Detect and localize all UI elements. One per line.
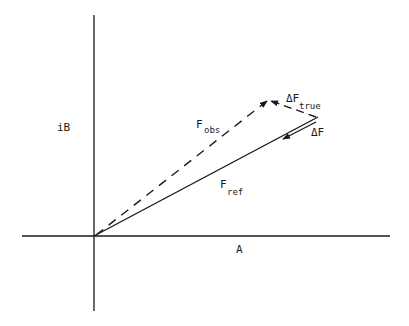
delta-f-true-label-base: ΔF [286, 92, 299, 105]
delta-f-label: ΔF [311, 126, 324, 139]
axis-label-a: A [236, 243, 243, 256]
axis-label-ib: iB [57, 121, 71, 134]
f-obs-label-base: F [196, 118, 203, 131]
f-ref-label-base: F [220, 178, 227, 191]
f-ref-label-subscript: ref [227, 187, 243, 197]
f-obs-vector [96, 101, 267, 235]
delta-f-true-label-subscript: true [299, 101, 321, 111]
vector-diagram: iB A F obs F ref ΔF true ΔF [0, 0, 409, 326]
f-obs-label-subscript: obs [204, 125, 220, 135]
